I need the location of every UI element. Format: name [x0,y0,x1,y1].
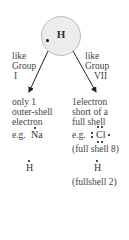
sodium-symbol: Na [31,130,43,140]
left-desc-line2: outer-shell [12,107,52,117]
left-example-prefix: e.g. [12,130,26,140]
right-hydrogen-note: (fullshell 2) [72,177,117,187]
right-example: e.g. Cl [72,130,106,140]
left-desc-line1: only 1 [12,97,52,107]
right-group-label: like Group VII [85,51,109,81]
right-hydrogen: H [94,163,101,173]
left-group-label: like Group I [12,51,36,81]
right-label-line1: like [85,51,109,61]
left-example: e.g. Na [12,130,43,140]
right-desc-line1: 1electron [72,97,108,107]
electron-dot-icon [28,160,30,162]
left-hydrogen-text: H [26,162,33,173]
sodium-symbol-text: Na [31,129,43,140]
right-example-note: (full shell 8) [72,144,119,154]
right-example-prefix: e.g. [72,130,86,140]
left-hydrogen-symbol: H [26,163,33,173]
electron-dot-icon [91,132,93,134]
chlorine-symbol: Cl [96,130,105,140]
right-hydrogen-text: H [94,162,101,173]
right-desc-line2: short of a [72,107,108,117]
chlorine-symbol-text: Cl [96,129,105,140]
left-description: only 1 outer-shell electron [12,97,52,127]
left-label-line3: I [12,71,36,81]
right-label-line3: VII [85,71,109,81]
right-description: 1electron short of a full shell [72,97,108,127]
right-label-line2: Group [85,61,109,71]
left-label-line2: Group [12,61,36,71]
left-label-line1: like [12,51,36,61]
left-hydrogen: H [26,163,33,173]
electron-dot-icon [96,160,98,162]
electron-dot-icon [91,136,93,138]
left-desc-line3: electron [12,117,52,127]
right-hydrogen-symbol: H [94,163,101,173]
